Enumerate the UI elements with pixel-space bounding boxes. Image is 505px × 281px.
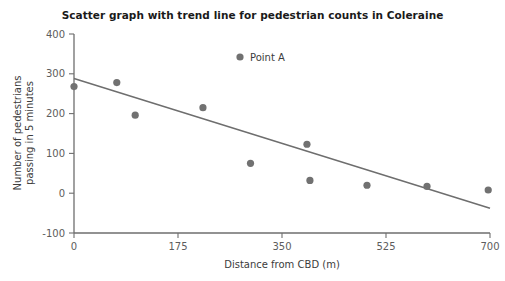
y-axis-title-line1: Number of pedestrians: [12, 76, 23, 191]
data-point: [485, 186, 492, 193]
x-tick-label: 175: [168, 241, 187, 252]
x-axis: 0175350525700: [71, 233, 500, 252]
chart-figure: Scatter graph with trend line for pedest…: [0, 0, 505, 281]
x-tick-label: 350: [272, 241, 291, 252]
x-tick-label: 0: [71, 241, 77, 252]
data-point: [247, 160, 254, 167]
y-tick-label: 0: [59, 188, 65, 199]
y-tick-label: 100: [46, 148, 65, 159]
data-point: [113, 79, 120, 86]
x-axis-title: Distance from CBD (m): [224, 259, 340, 270]
y-tick-label: 200: [46, 108, 65, 119]
data-point: [303, 141, 310, 148]
x-tick-label: 525: [376, 241, 395, 252]
legend-marker-icon: [236, 53, 243, 60]
y-tick-label: -100: [42, 228, 65, 239]
y-tick-label: 400: [46, 29, 65, 40]
data-point: [423, 183, 430, 190]
data-point-series: [70, 79, 491, 194]
data-point: [132, 112, 139, 119]
data-point: [363, 182, 370, 189]
y-axis: -1000100200300400: [42, 29, 74, 239]
x-tick-label: 700: [480, 241, 499, 252]
data-point: [199, 104, 206, 111]
chart-legend: Point A: [236, 52, 285, 63]
y-axis-title-line2: passing in 5 minutes: [24, 81, 35, 185]
data-point: [70, 83, 77, 90]
y-tick-label: 300: [46, 68, 65, 79]
scatter-plot-canvas: -1000100200300400 0175350525700 Point A …: [0, 0, 505, 281]
data-point: [306, 177, 313, 184]
legend-label: Point A: [250, 52, 285, 63]
